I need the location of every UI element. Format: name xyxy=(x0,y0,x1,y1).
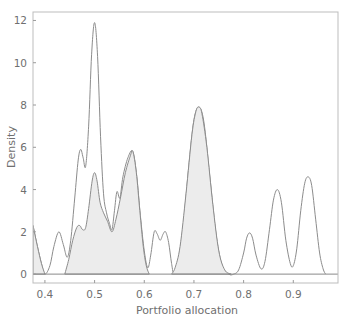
y-tick-label: 4 xyxy=(20,184,27,196)
y-tick-label: 0 xyxy=(20,268,27,280)
y-tick-label: 10 xyxy=(14,57,27,69)
x-tick-label: 0.6 xyxy=(136,288,153,300)
y-tick-label: 2 xyxy=(20,226,27,238)
density-chart: 0.40.50.60.70.80.9 024681012 Portfolio a… xyxy=(0,0,349,324)
y-tick-label: 6 xyxy=(20,141,27,153)
curves-layer xyxy=(33,23,326,275)
y-tick-label: 12 xyxy=(14,14,27,26)
x-axis-title: Portfolio allocation xyxy=(136,304,238,317)
x-tick-label: 0.9 xyxy=(285,288,302,300)
y-axis-title: Density xyxy=(5,126,18,168)
y-tick-label: 8 xyxy=(20,99,27,111)
x-tick-label: 0.5 xyxy=(86,288,103,300)
x-tick-label: 0.4 xyxy=(37,288,54,300)
x-tick-label: 0.8 xyxy=(235,288,252,300)
x-tick-label: 0.7 xyxy=(186,288,203,300)
filled-density-area-2 xyxy=(172,107,232,274)
